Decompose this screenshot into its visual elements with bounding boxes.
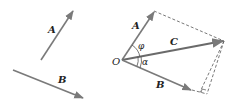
- label-b-free: B: [57, 74, 66, 85]
- label-origin: O: [112, 56, 120, 67]
- dashed-a-to-c: [154, 11, 224, 41]
- dashed-b-extension: [192, 90, 207, 94]
- label-c: C: [170, 36, 178, 47]
- right-panel: O A C B φ α: [112, 11, 224, 94]
- vector-b-free: [13, 70, 83, 98]
- vector-a-free: [41, 11, 73, 60]
- label-a-free: A: [47, 24, 56, 35]
- dashed-c-to-b: [200, 41, 224, 92]
- label-phi: φ: [138, 41, 145, 51]
- label-b: B: [155, 79, 164, 90]
- label-a: A: [131, 20, 140, 31]
- vector-addition-diagram: A B O A C B φ α: [0, 0, 240, 104]
- angle-arc-alpha: [137, 57, 138, 66]
- dashed-projection: [207, 41, 224, 94]
- label-alpha: α: [142, 57, 148, 67]
- left-panel: A B: [13, 11, 83, 98]
